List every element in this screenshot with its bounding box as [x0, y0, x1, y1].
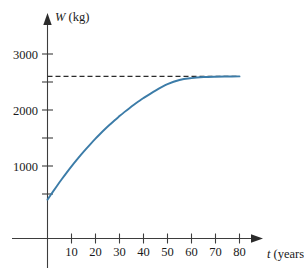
y-tick-label-1000: 1000	[13, 160, 38, 174]
x-tick-label-40: 40	[137, 245, 150, 259]
x-tick-label-80: 80	[233, 245, 246, 259]
x-tick-label-50: 50	[161, 245, 174, 259]
y-tick-label-2000: 2000	[13, 104, 38, 118]
x-axis-title-unit: (years)	[274, 247, 304, 261]
x-tick-label-70: 70	[209, 245, 222, 259]
x-tick-label-10: 10	[65, 245, 78, 259]
x-axis-title: t (years)	[267, 247, 304, 261]
x-tick-label-30: 30	[113, 245, 126, 259]
growth-curve-chart: 3000 2000 1000 10 20 30 40 50 60 70 80 W…	[0, 0, 304, 275]
chart-figure: 3000 2000 1000 10 20 30 40 50 60 70 80 W…	[0, 0, 304, 275]
y-tick-label-3000: 3000	[13, 48, 38, 62]
y-axis-title: W (kg)	[55, 10, 89, 24]
x-tick-label-20: 20	[89, 245, 102, 259]
x-tick-label-60: 60	[185, 245, 198, 259]
y-axis-title-unit: (kg)	[69, 10, 90, 24]
